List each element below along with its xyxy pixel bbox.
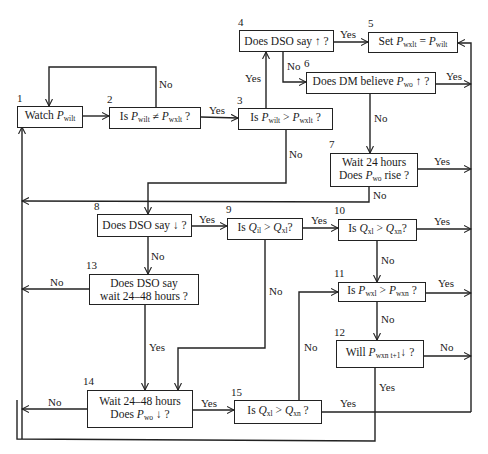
node-text: Is <box>120 110 131 122</box>
node-line: Does DSO say ↑ ? <box>244 35 328 48</box>
edge-label-2-no: No <box>159 78 172 90</box>
node-text: Does DSO say ↑ ? <box>244 35 328 47</box>
node-text: ↑ ? <box>413 75 430 87</box>
variable: Qxl <box>258 404 272 416</box>
node-text: > <box>273 404 285 416</box>
node-5-set: Set Pwxlt = Pwilt <box>368 32 458 53</box>
variable: Pwo <box>397 75 413 87</box>
variable: Qxn <box>386 222 402 234</box>
edge-label-9-yes: Yes <box>311 214 327 226</box>
variable: Qxn <box>285 404 301 416</box>
node-1-watch: Watch Pwilt <box>17 106 83 128</box>
edge-label-6-yes: Yes <box>446 70 462 82</box>
variable: Pwilt <box>57 109 76 121</box>
node-line: Watch Pwilt <box>25 109 76 125</box>
node-14-wait-24-48: Wait 24–48 hoursDoes Pwo ↓ ? <box>87 390 193 428</box>
node-line: Does DSO say ↓ ? <box>102 219 186 232</box>
node-text: ↓ ? <box>153 408 170 420</box>
node-text: Does <box>339 169 366 181</box>
node-9-qil-qxl: Is Qil > Qxl? <box>227 218 303 240</box>
edge-label-10-yes: Yes <box>434 215 450 227</box>
node-text: ≠ <box>150 110 162 122</box>
node-line: Wait 24–48 hours <box>99 395 180 408</box>
edge-9-14-no <box>178 240 265 390</box>
node-10-qxl-qxn: Is Qxl > Qxn? <box>338 219 417 241</box>
edge-label-11-no: No <box>381 313 394 325</box>
node-6-dm-believe: Does DM believe Pwo ↑ ? <box>306 72 436 94</box>
node-text: Does DM believe <box>313 75 397 87</box>
node-number: 8 <box>94 200 100 212</box>
edge-label-13-no: No <box>50 276 63 288</box>
node-line: Does DM believe Pwo ↑ ? <box>313 75 430 91</box>
edge-label-7-no: No <box>373 189 386 201</box>
node-text: wait 24–48 hours ? <box>100 290 188 302</box>
variable: Pwxlt <box>162 110 182 122</box>
node-number: 6 <box>304 57 310 69</box>
node-line: Set Pwxlt = Pwilt <box>379 35 448 51</box>
node-text: Will <box>346 346 369 358</box>
variable: Pwxlt <box>396 35 416 47</box>
edge-label-14-no: No <box>48 396 61 408</box>
edge-label-11-yes: Yes <box>438 277 454 289</box>
node-text: rise ? <box>382 169 409 181</box>
node-text: ? <box>402 222 407 234</box>
node-15-qxl-qxn: Is Qxl > Qxn ? <box>234 400 322 424</box>
node-line: Does Pwo rise ? <box>339 169 409 185</box>
node-number: 5 <box>368 17 374 29</box>
node-line: Does DSO say <box>110 277 178 290</box>
node-text: ? <box>301 404 309 416</box>
node-text: Wait 24–48 hours <box>99 395 180 407</box>
node-text: ? <box>287 221 292 233</box>
node-number: 13 <box>86 259 97 271</box>
node-text: = <box>417 35 429 47</box>
node-text: Is <box>247 404 258 416</box>
node-text: Is <box>237 221 248 233</box>
edge-label-3-no: No <box>289 148 302 160</box>
node-number: 7 <box>329 138 335 150</box>
edge-label-12-no: No <box>440 341 453 353</box>
variable: Pwxl <box>358 284 376 296</box>
node-number: 1 <box>17 92 23 104</box>
variable: Pwilt <box>261 111 280 123</box>
node-11-pwxl-pwxn: Is Pwxl > Pwxn ? <box>338 282 426 302</box>
edge-label-8-no: No <box>151 250 164 262</box>
node-2-compare-neq: Is Pwilt ≠ Pwxlt ? <box>109 107 201 129</box>
node-13-dso-wait: Does DSO saywait 24–48 hours ? <box>89 274 199 305</box>
edge-label-15-yes: Yes <box>340 397 356 409</box>
node-text: Is <box>348 222 359 234</box>
node-line: Is Qil > Qxl? <box>237 221 292 237</box>
edge-label-13-yes: Yes <box>149 341 165 353</box>
variable: Pwxn t+1 <box>369 346 401 358</box>
node-text: ↓ ? <box>401 346 415 358</box>
edge-label-6-no: No <box>374 112 387 124</box>
node-number: 3 <box>237 94 243 106</box>
variable: Pwilt <box>131 110 150 122</box>
node-number: 12 <box>334 326 345 338</box>
node-text: ? <box>409 284 417 296</box>
edge-2-3-yes <box>201 117 238 118</box>
node-number: 14 <box>83 375 94 387</box>
node-3-compare-gt: Is Pwilt > Pwxlt ? <box>238 108 333 130</box>
node-text: Does <box>110 408 137 420</box>
node-number: 4 <box>238 16 244 28</box>
edge-2-1-no <box>49 67 156 107</box>
edge-7-1-no <box>22 187 369 202</box>
node-line: Is Qxl > Qxn ? <box>247 404 308 420</box>
node-text: Wait 24 hours <box>342 156 406 168</box>
variable: Qxl <box>359 222 373 234</box>
edge-label-9-no: No <box>269 285 282 297</box>
node-line: Is Qxl > Qxn? <box>348 222 407 238</box>
edge-label-3-yes: Yes <box>245 72 261 84</box>
node-number: 2 <box>107 93 113 105</box>
edge-label-8-yes: Yes <box>199 213 215 225</box>
node-line: wait 24–48 hours ? <box>100 290 188 303</box>
node-number: 10 <box>334 204 345 216</box>
node-text: > <box>374 222 386 234</box>
node-line: Does Pwo ↓ ? <box>110 408 169 424</box>
node-line: Will Pwxn t+1↓ ? <box>346 346 414 362</box>
edge-label-12-yes: Yes <box>379 381 395 393</box>
node-number: 11 <box>334 267 345 279</box>
variable: Pwxn <box>389 284 409 296</box>
node-text: Watch <box>25 109 57 121</box>
node-4-dso-up: Does DSO say ↑ ? <box>239 30 334 52</box>
